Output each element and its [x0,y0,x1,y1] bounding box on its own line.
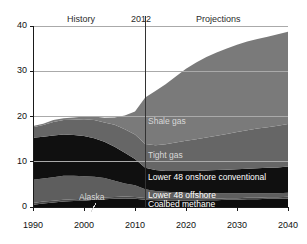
series-label-tight-gas: Tight gas [148,150,183,160]
history-annotation: History [67,14,95,24]
y-axis-tick-label: 40 [5,20,27,30]
divider-year-annotation: 2012 [131,14,151,24]
x-axis-tick-label: 2020 [166,220,206,230]
x-axis-tick-label: 2030 [217,220,257,230]
series-label-lower-48-onshore-conventional: Lower 48 onshore conventional [148,172,266,182]
x-axis-tick-label: 1990 [13,220,53,230]
series-label-coalbed-methane: Coalbed methane [148,199,215,209]
y-axis-tick-label: 0 [5,201,27,211]
projections-annotation: Projections [196,14,241,24]
x-axis-tick-label: 2040 [268,220,307,230]
series-label-shale-gas: Shale gas [148,116,186,126]
y-axis-tick-label: 20 [5,111,27,121]
series-label-alaska: Alaska [79,192,105,202]
x-axis-tick-label: 2000 [64,220,104,230]
chart-container: History 2012 Projections 0 10 20 30 40 1… [0,0,307,244]
y-axis-tick-label: 30 [5,65,27,75]
y-axis-tick-label: 10 [5,156,27,166]
x-axis-tick-label: 2010 [115,220,155,230]
